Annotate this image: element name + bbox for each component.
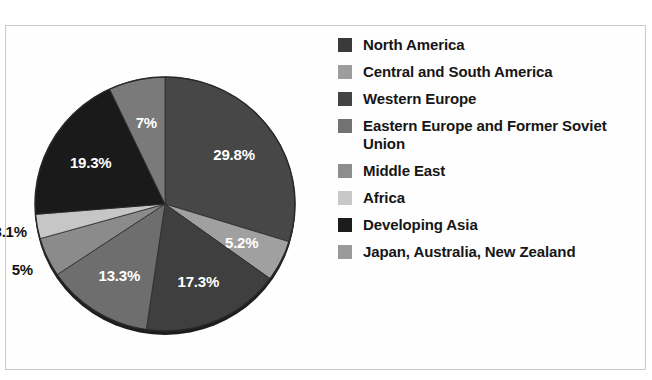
pie-slice-label: 5.2% — [225, 233, 258, 250]
legend-swatch-icon — [338, 164, 352, 178]
legend-item: Western Europe — [338, 90, 638, 108]
legend-swatch-icon — [338, 38, 352, 52]
legend-item-label: North America — [363, 36, 465, 54]
pie-slice-label: 17.3% — [178, 273, 220, 290]
legend-item-label: Eastern Europe and Former Soviet Union — [363, 117, 638, 153]
legend-item-label: Middle East — [363, 162, 445, 180]
legend-item-label: Africa — [363, 189, 405, 207]
legend-swatch-icon — [338, 119, 352, 133]
legend-swatch-icon — [338, 218, 352, 232]
legend-item: Japan, Australia, New Zealand — [338, 243, 638, 261]
legend-item: Eastern Europe and Former Soviet Union — [338, 117, 638, 153]
legend-swatch-icon — [338, 65, 352, 79]
legend-item: Africa — [338, 189, 638, 207]
legend-swatch-icon — [338, 245, 352, 259]
legend-item: Developing Asia — [338, 216, 638, 234]
pie-slice-label: 13.3% — [99, 266, 141, 283]
pie-chart-figure: World Energy Consumption by Region 29.8%… — [0, 0, 652, 380]
pie-plot-area: 29.8%5.2%17.3%13.3%5%3.1%19.3%7% — [10, 28, 320, 348]
legend-item: North America — [338, 36, 638, 54]
pie-slices — [35, 77, 295, 331]
pie-slice-label: 29.8% — [213, 146, 255, 163]
chart-title-clipped: World Energy Consumption by Region — [0, 0, 652, 4]
pie-slice-label: 5% — [12, 260, 33, 277]
chart-title: World Energy Consumption by Region — [0, 0, 652, 1]
pie-slice-label: 3.1% — [0, 223, 27, 240]
legend-swatch-icon — [338, 92, 352, 106]
legend-swatch-icon — [338, 191, 352, 205]
pie-slice-label: 19.3% — [70, 154, 112, 171]
legend-item-label: Western Europe — [363, 90, 476, 108]
legend-item-label: Central and South America — [363, 63, 552, 81]
pie-slice-label: 7% — [136, 114, 157, 131]
legend-item: Central and South America — [338, 63, 638, 81]
legend: North AmericaCentral and South AmericaWe… — [338, 36, 638, 270]
legend-item-label: Developing Asia — [363, 216, 478, 234]
pie-svg — [10, 28, 320, 348]
legend-item-label: Japan, Australia, New Zealand — [363, 243, 575, 261]
legend-item: Middle East — [338, 162, 638, 180]
